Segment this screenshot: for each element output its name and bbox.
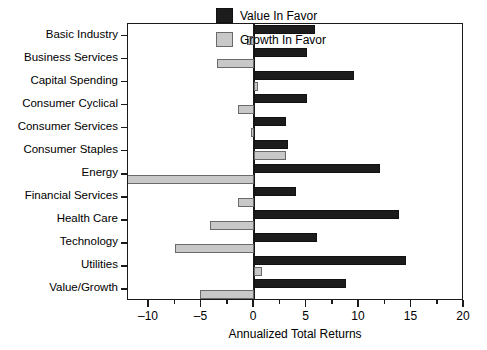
x-axis-minor-tick-mark bbox=[331, 300, 333, 304]
y-axis-tick-label: Consumer Cyclical bbox=[0, 97, 118, 109]
y-axis-tick-label: Consumer Staples bbox=[0, 143, 118, 155]
legend-label-value: Value In Favor bbox=[240, 9, 317, 23]
y-axis-tick-label: Technology bbox=[0, 235, 118, 247]
x-axis-tick-label: 15 bbox=[391, 309, 431, 323]
x-axis-tick-label: –10 bbox=[128, 309, 168, 323]
y-axis-labels: Basic IndustryBusiness ServicesCapital S… bbox=[0, 0, 487, 350]
y-axis-tick-label: Business Services bbox=[0, 51, 118, 63]
x-axis-tick-mark bbox=[305, 300, 307, 307]
y-axis-tick-label: Energy bbox=[0, 166, 118, 178]
x-axis-tick-mark bbox=[410, 300, 412, 307]
x-axis-minor-tick-mark bbox=[279, 300, 281, 304]
x-axis-tick-label: 20 bbox=[443, 309, 483, 323]
y-axis-tick-label: Basic Industry bbox=[0, 28, 118, 40]
x-axis-minor-tick-mark bbox=[384, 300, 386, 304]
y-axis-tick-label: Health Care bbox=[0, 212, 118, 224]
y-axis-tick-mark bbox=[121, 219, 128, 221]
x-axis-tick-mark bbox=[462, 300, 464, 307]
x-axis-tick-label: 0 bbox=[233, 309, 273, 323]
x-axis-tick-label: 5 bbox=[286, 309, 326, 323]
legend-label-growth: Growth In Favor bbox=[240, 33, 326, 47]
x-axis-minor-tick-mark bbox=[226, 300, 228, 304]
y-axis-tick-mark bbox=[121, 242, 128, 244]
x-axis-tick-mark bbox=[200, 300, 202, 307]
legend-swatch-icon-growth bbox=[216, 32, 233, 47]
y-axis-tick-mark bbox=[121, 173, 128, 175]
legend-swatch-icon-value bbox=[216, 8, 233, 23]
y-axis-tick-mark bbox=[121, 104, 128, 106]
x-axis-tick-label: 10 bbox=[338, 309, 378, 323]
chart-figure: Basic IndustryBusiness ServicesCapital S… bbox=[0, 0, 487, 350]
y-axis-tick-label: Value/Growth bbox=[0, 281, 118, 293]
legend-item-value-in-favor: Value In Favor bbox=[216, 7, 317, 24]
y-axis-tick-label: Utilities bbox=[0, 258, 118, 270]
y-axis-tick-label: Capital Spending bbox=[0, 74, 118, 86]
y-axis-tick-label: Consumer Services bbox=[0, 120, 118, 132]
x-axis-minor-tick-mark bbox=[436, 300, 438, 304]
legend-item-growth-in-favor: Growth In Favor bbox=[216, 31, 326, 48]
y-axis-tick-mark bbox=[121, 58, 128, 60]
y-axis-tick-mark bbox=[121, 81, 128, 83]
y-axis-tick-label: Financial Services bbox=[0, 189, 118, 201]
y-axis-tick-mark bbox=[121, 150, 128, 152]
x-axis-title: Annualized Total Returns bbox=[127, 327, 463, 341]
x-axis-tick-mark bbox=[147, 300, 149, 307]
x-axis-tick-label: –5 bbox=[181, 309, 221, 323]
y-axis-tick-mark bbox=[121, 127, 128, 129]
y-axis-tick-mark bbox=[121, 196, 128, 198]
y-axis-tick-mark bbox=[121, 265, 128, 267]
x-axis-tick-mark bbox=[252, 300, 254, 307]
x-axis-tick-mark bbox=[357, 300, 359, 307]
x-axis-minor-tick-mark bbox=[174, 300, 176, 304]
y-axis-tick-mark bbox=[121, 35, 128, 37]
y-axis-tick-mark bbox=[121, 288, 128, 290]
